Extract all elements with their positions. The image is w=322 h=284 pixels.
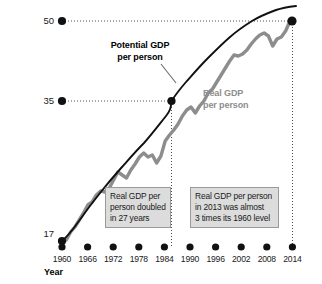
ytick-dot-35: [58, 97, 66, 105]
ytick-label-50: 50: [32, 15, 54, 26]
marker-doubling-1987: [167, 97, 175, 105]
xtick-dot-1990: [186, 243, 193, 250]
xtick-dot-1960: [58, 243, 65, 250]
gdp-per-person-chart: Real GDP per person (thousands of 2009 d…: [0, 0, 322, 284]
xtick-dot-1978: [135, 243, 142, 250]
xtick-dot-1972: [110, 243, 117, 250]
ytick-dot-50: [58, 17, 66, 25]
marker-end-2013: [287, 16, 296, 25]
doubling-note-box: Real GDP per person doubled in 27 years: [105, 187, 171, 228]
ytick-label-17: 17: [32, 228, 54, 239]
tripling-note-box: Real GDP per person in 2013 was almost 3…: [190, 187, 279, 228]
xtick-dot-1966: [84, 243, 91, 250]
potential-gdp-series-label: Potential GDP per person: [100, 40, 180, 63]
xtick-label-2014: 2014: [275, 254, 309, 264]
xtick-dot-2008: [263, 243, 270, 250]
x-axis-title: Year: [44, 267, 63, 277]
real-gdp-series-label: Real GDP per person: [203, 88, 283, 111]
xtick-dot-2002: [238, 243, 245, 250]
potential-label-leader-line: [161, 64, 176, 83]
xtick-dot-2014: [289, 243, 296, 250]
xtick-dot-1984: [161, 243, 168, 250]
ytick-label-35: 35: [32, 95, 54, 106]
xtick-dot-1996: [212, 243, 219, 250]
